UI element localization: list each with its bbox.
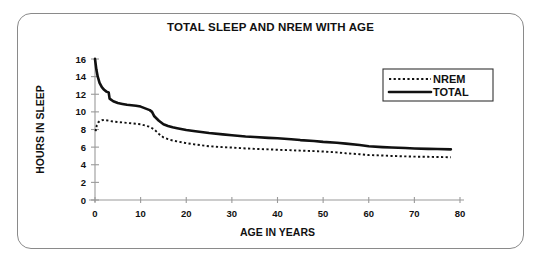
y-tick-label: 2 [81,177,86,188]
y-tick-label: 8 [81,124,86,135]
y-axis-title: HOURS IN SLEEP [34,85,46,174]
y-tick-label: 10 [75,106,86,117]
y-tick-label: 14 [75,71,86,82]
y-tick-label: 6 [81,142,86,153]
x-tick-label: 20 [181,208,192,219]
y-tick-label: 4 [81,159,87,170]
x-tick-label: 80 [455,208,466,219]
chart-frame: TOTAL SLEEP AND NREM WITH AGE 0102030405… [17,13,524,249]
x-axis-title: AGE IN YEARS [240,226,315,238]
y-tick-label: 12 [75,89,86,100]
x-tick-label: 10 [135,208,146,219]
x-tick-label: 40 [272,208,283,219]
x-tick-label: 70 [409,208,420,219]
y-tick-label: 0 [81,195,86,206]
chart-plot-area: 010203040506070800246810121416AGE IN YEA… [18,14,525,250]
legend-label-total[interactable]: TOTAL [433,86,469,98]
x-tick-label: 60 [363,208,374,219]
figure-root: TOTAL SLEEP AND NREM WITH AGE 0102030405… [0,0,544,267]
y-tick-label: 16 [75,54,86,65]
x-tick-label: 50 [318,208,329,219]
x-tick-label: 0 [92,208,97,219]
x-tick-label: 30 [227,208,238,219]
legend-label-nrem[interactable]: NREM [433,73,465,85]
